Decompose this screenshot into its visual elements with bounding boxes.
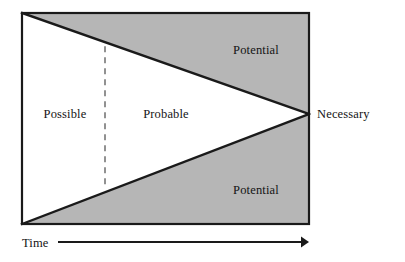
diagram-canvas	[0, 0, 405, 262]
region-label-probable: Probable	[143, 108, 189, 121]
time-axis-arrowhead	[301, 237, 309, 248]
region-label-possible: Possible	[44, 108, 87, 121]
region-label-potential-top: Potential	[233, 44, 279, 57]
apex-label-necessary: Necessary	[317, 108, 370, 121]
futures-cone-diagram: Possible Probable Potential Potential Ne…	[0, 0, 405, 262]
region-label-potential-bottom: Potential	[233, 184, 279, 197]
axis-label-time: Time	[22, 237, 49, 250]
